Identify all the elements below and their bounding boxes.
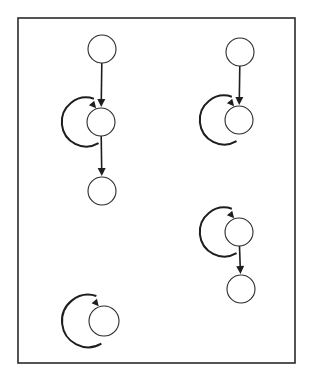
arrowhead-icon — [236, 266, 244, 274]
arrowhead-icon — [97, 99, 105, 107]
graph-node — [225, 106, 253, 134]
graph-node — [89, 306, 119, 336]
arrowhead-icon — [89, 101, 96, 109]
graph-top-left — [62, 35, 116, 205]
graph-node — [227, 275, 255, 303]
arrowhead-icon — [98, 168, 106, 176]
graph-node — [226, 38, 254, 66]
graph-node — [88, 35, 116, 63]
graph-top-right — [200, 38, 254, 145]
figure-frame — [18, 18, 295, 363]
arrowhead-icon — [227, 99, 234, 107]
graph-node — [88, 177, 116, 205]
arrowhead-icon — [227, 211, 234, 219]
directed-edge — [239, 66, 240, 100]
graph-bottom-left — [62, 295, 119, 347]
graph-node — [225, 218, 253, 246]
directed-edge — [101, 63, 102, 102]
graph-collection — [62, 35, 255, 347]
graph-middle-right — [200, 208, 255, 303]
arrowhead-icon — [235, 97, 243, 105]
diagram-canvas — [0, 0, 310, 378]
directed-edge — [239, 246, 240, 269]
graph-node — [87, 108, 115, 136]
directed-edge — [101, 136, 102, 171]
arrowhead-icon — [92, 299, 99, 307]
